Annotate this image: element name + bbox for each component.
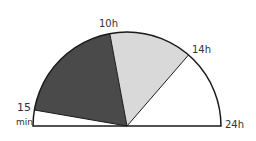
label-14h: 14h [192, 45, 211, 55]
semicircle-dial [0, 0, 256, 141]
label-10h: 10h [99, 19, 118, 29]
label-15: 15 [17, 103, 31, 113]
label-min: min [16, 117, 33, 127]
label-24h: 24h [225, 120, 244, 130]
